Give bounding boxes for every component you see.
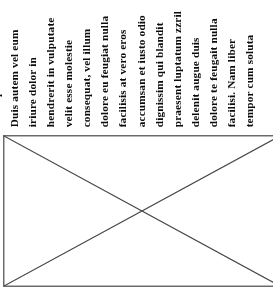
text-line: facilisis at vero eros <box>117 29 128 127</box>
text-line: iriure dolor in <box>27 57 38 127</box>
text-line: velit esse molestie <box>63 39 74 127</box>
rotated-body-text: consequat.Duis autem vel eumiriure dolor… <box>0 0 273 127</box>
text-line: dolore eu feugiat nulla <box>99 15 110 127</box>
text-line: consequat, vel illum <box>81 28 92 127</box>
document-page: consequat.Duis autem vel eumiriure dolor… <box>0 0 273 302</box>
placeholder-x-graphic <box>3 135 273 287</box>
text-line: delenit augue duis <box>190 37 201 127</box>
image-placeholder-box <box>3 135 273 287</box>
text-line: praesent luptatum zzril <box>172 11 183 127</box>
text-line: facilisi. Nam liber <box>226 38 237 127</box>
text-line: tempor cum soluta <box>244 34 255 127</box>
text-line: Duis autem vel eum <box>9 29 20 127</box>
text-line: dignissim qui blandit <box>154 22 165 127</box>
text-line: consequat. <box>0 74 2 127</box>
text-line: hendrerit in vulputate <box>45 17 56 127</box>
text-line: accumsan et iusto odio <box>136 15 147 127</box>
text-line: dolore te feugait nulla <box>208 18 219 127</box>
